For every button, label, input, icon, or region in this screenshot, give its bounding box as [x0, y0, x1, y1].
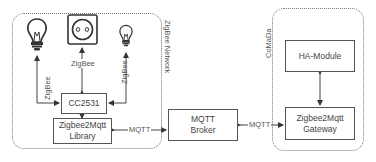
zigbee2mqtt-library-node: Zigbee2Mqtt Library	[53, 118, 112, 144]
zigbee2mqtt-gateway-node: Zigbee2Mqtt Gateway	[285, 107, 355, 140]
power-socket-icon	[67, 14, 98, 45]
zigbee-link-label-socket: ZigBee	[71, 59, 95, 68]
library-label-line2: Library	[70, 131, 96, 142]
cc2531-label: CC2531	[68, 98, 99, 109]
gateway-label-line1: Zigbee2Mqtt	[296, 113, 343, 124]
gateway-label-line2: Gateway	[303, 124, 337, 135]
ha-module-label: HA-Module	[299, 51, 342, 62]
mqtt-edge-label-broker-gateway: MQTT	[248, 120, 271, 129]
broker-label-line1: MQTT	[191, 114, 215, 125]
zigbee-network-label: ZigBee Network	[163, 20, 172, 73]
zigbee-link-label-bulb: ZigBee	[43, 76, 52, 100]
ha-module-node: HA-Module	[285, 40, 355, 72]
broker-label-line2: Broker	[190, 125, 215, 136]
comada-label: CoMaDa	[264, 28, 273, 58]
cc2531-node: CC2531	[61, 93, 107, 114]
library-label-line1: Zigbee2Mqtt	[59, 120, 106, 131]
mqtt-broker-node: MQTT Broker	[168, 109, 238, 141]
light-bulb-icon	[25, 17, 49, 53]
light-bulb-small-icon	[118, 22, 134, 50]
zigbee-link-label-small-bulb: ZigBee	[120, 60, 129, 84]
mqtt-edge-label-library-broker: MQTT	[128, 125, 151, 134]
